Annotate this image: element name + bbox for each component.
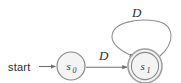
automaton-diagram: s 0 s 1 start D D xyxy=(0,0,181,83)
state-circle-s0 xyxy=(57,52,85,80)
transition-label-self-loop: D xyxy=(131,5,142,20)
state-label-s1-name: s xyxy=(141,60,145,72)
transition-label-s0-s1: D xyxy=(98,48,109,63)
automaton-canvas: s 0 s 1 start D D xyxy=(0,0,181,83)
start-label: start xyxy=(8,61,30,73)
state-node-s1[interactable]: s 1 xyxy=(128,49,162,83)
state-label-s0-name: s xyxy=(67,60,71,72)
state-node-s0[interactable]: s 0 xyxy=(57,52,85,80)
state-label-s0-subscript: 0 xyxy=(73,66,77,75)
state-label-s1-subscript: 1 xyxy=(147,66,151,75)
state-circle-s1 xyxy=(131,52,158,79)
